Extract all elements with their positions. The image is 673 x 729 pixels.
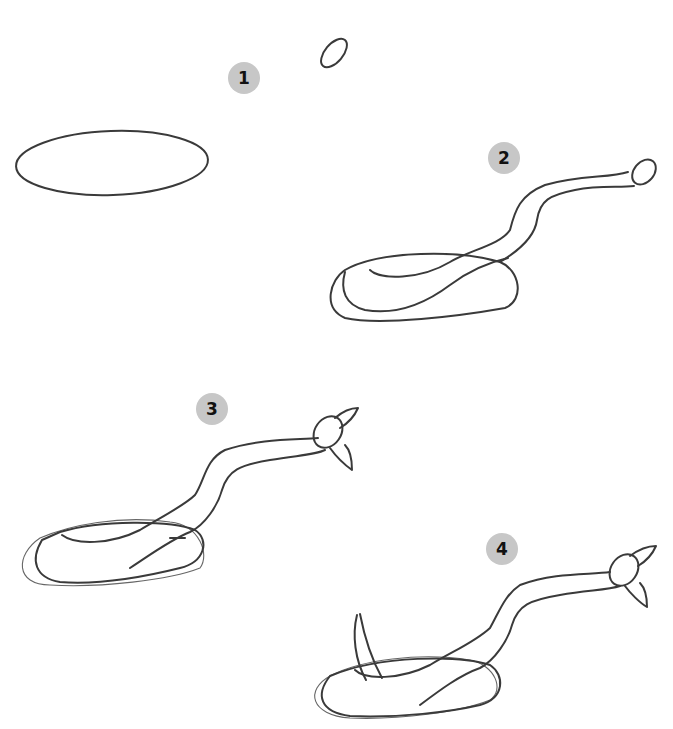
step-4-drawing [315,546,656,718]
step-badge-1: 1 [228,62,260,94]
step-2-drawing [331,155,661,321]
step-1-drawing [15,34,352,198]
step-badge-4: 4 [486,533,518,565]
step-badge-2: 2 [488,142,520,174]
step-badge-3: 3 [196,393,228,425]
step-3-drawing [22,408,358,586]
tutorial-drawing [0,0,673,729]
